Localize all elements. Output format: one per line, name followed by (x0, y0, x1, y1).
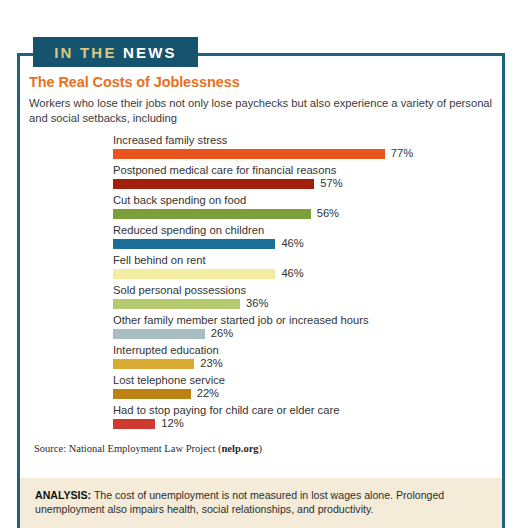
badge-label-news: NEWS (123, 44, 177, 61)
chart-bar-value: 46% (281, 237, 303, 249)
analysis-body: The cost of unemployment is not measured… (35, 489, 444, 515)
chart-row-label: Interrupted education (113, 344, 219, 357)
chart-bar-value: 56% (317, 207, 339, 219)
chart-bar (113, 149, 385, 159)
chart-row: Had to stop paying for child care or eld… (29, 404, 489, 434)
chart-bar (113, 419, 155, 429)
chart-bar-value: 46% (281, 267, 303, 279)
chart-row-label: Fell behind on rent (113, 254, 206, 267)
badge-text: IN THE NEWS (54, 45, 177, 60)
chart-row-label: Increased family stress (113, 134, 227, 147)
analysis-text-block: ANALYSIS: The cost of unemployment is no… (35, 488, 481, 516)
chart-bar (113, 299, 240, 309)
chart-row: Sold personal possessions36% (29, 284, 489, 314)
chart-row-label: Other family member started job or incre… (113, 314, 369, 327)
chart-bar-value: 22% (197, 387, 219, 399)
chart-row: Reduced spending on children46% (29, 224, 489, 254)
analysis-box: ANALYSIS: The cost of unemployment is no… (20, 478, 505, 528)
chart-row: Postponed medical care for financial rea… (29, 164, 489, 194)
chart-bar (113, 359, 194, 369)
chart-row: Cut back spending on food56% (29, 194, 489, 224)
source-suffix: ) (259, 443, 263, 454)
bar-chart: Increased family stress77%Postponed medi… (29, 134, 489, 434)
chart-row-label: Cut back spending on food (113, 194, 246, 207)
chart-row: Lost telephone service22% (29, 374, 489, 404)
chart-row-label: Had to stop paying for child care or eld… (113, 404, 339, 417)
chart-bar (113, 269, 275, 279)
chart-bar (113, 389, 191, 399)
badge-label-in-the: IN THE (54, 44, 116, 61)
chart-row: Fell behind on rent46% (29, 254, 489, 284)
source-prefix: Source: National Employment Law Project … (34, 443, 222, 454)
analysis-label: ANALYSIS: (35, 489, 91, 501)
chart-row-label: Postponed medical care for financial rea… (113, 164, 336, 177)
chart-row-label: Sold personal possessions (113, 284, 246, 297)
chart-row: Increased family stress77% (29, 134, 489, 164)
news-infographic-page: IN THE NEWS The Real Costs of Joblessnes… (0, 0, 519, 528)
chart-bar (113, 329, 205, 339)
chart-bar-value: 23% (200, 357, 222, 369)
chart-bar-value: 77% (391, 147, 413, 159)
page-title: The Real Costs of Joblessness (29, 74, 240, 90)
in-the-news-badge: IN THE NEWS (33, 37, 198, 67)
analysis-left-border (17, 478, 20, 528)
chart-bar-value: 12% (161, 417, 183, 429)
chart-bar (113, 239, 275, 249)
chart-row: Other family member started job or incre… (29, 314, 489, 344)
source-link: nelp.org (222, 443, 259, 454)
chart-row-label: Lost telephone service (113, 374, 225, 387)
intro-paragraph: Workers who lose their jobs not only los… (29, 96, 495, 126)
chart-bar-value: 57% (320, 177, 342, 189)
source-line: Source: National Employment Law Project … (34, 443, 262, 454)
chart-bar (113, 209, 311, 219)
analysis-right-border (502, 478, 505, 528)
chart-bar-value: 36% (246, 297, 268, 309)
chart-row: Interrupted education23% (29, 344, 489, 374)
chart-bar-value: 26% (211, 327, 233, 339)
chart-bar (113, 179, 314, 189)
chart-row-label: Reduced spending on children (113, 224, 264, 237)
